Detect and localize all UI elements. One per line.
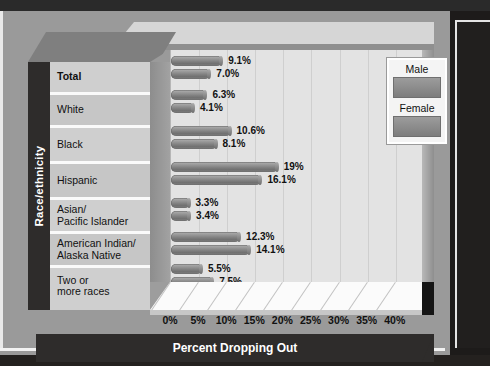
bar-male [171, 126, 231, 136]
chart-ceiling [134, 22, 434, 45]
category-label-line: Alaska Native [57, 250, 136, 262]
category-label-hispanic: Hispanic [50, 164, 150, 200]
category-label-line: American Indian/ [57, 238, 136, 250]
bar-female [171, 69, 210, 79]
floor-gridline [176, 282, 199, 310]
category-label-line: Hispanic [57, 175, 97, 187]
category-label-white: White [50, 95, 150, 128]
bar-female [171, 211, 190, 221]
right-margin-panel-inner [455, 20, 490, 348]
x-tick-label: 10% [216, 314, 237, 326]
x-tick-label: 5% [191, 314, 206, 326]
floor-gridline [316, 282, 339, 310]
bar-female [171, 245, 250, 255]
bar-female [171, 103, 194, 113]
x-tick-label: 15% [244, 314, 265, 326]
x-tick-label: 30% [328, 314, 349, 326]
bar-value-label: 12.3% [246, 231, 274, 242]
y-axis-title-bar: Race/ethnicity [28, 62, 50, 310]
bar-female [171, 175, 261, 185]
x-tick-label: 20% [272, 314, 293, 326]
gridline [368, 50, 369, 282]
bar-value-label: 9.1% [228, 55, 251, 66]
bar-value-label: 7.0% [216, 68, 239, 79]
plot-area: 9.1%7.0%6.3%4.1%10.6%8.1%19%16.1%3.3%3.4… [170, 50, 423, 282]
bar-value-label: 19% [284, 161, 304, 172]
chart-floor [150, 282, 434, 310]
category-label-asian-pacific-islander: Asian/ Pacific Islander [50, 200, 150, 234]
bar-male [171, 56, 222, 66]
bar-value-label: 14.1% [256, 244, 284, 255]
floor-gridline [260, 282, 283, 310]
category-label-two-or-more-races: Two or more races [50, 268, 150, 304]
bar-male [171, 162, 278, 172]
x-tick-label: 35% [356, 314, 377, 326]
floor-gridline [232, 282, 255, 310]
bar-female [171, 139, 217, 149]
floor-gridline [372, 282, 395, 310]
legend-label-male: Male [393, 63, 441, 75]
x-axis-ticks: 0%5%10%15%20%25%30%35%40% [150, 314, 434, 330]
floor-gridline [344, 282, 367, 310]
category-label-line: Pacific Islander [57, 216, 128, 228]
gridline [311, 50, 312, 282]
chart-floor-left-bevel [150, 282, 170, 310]
category-label-line: Total [57, 71, 81, 83]
legend-swatch-male [393, 77, 441, 98]
category-label-panel: Total White Black Hispanic Asian/ Pacifi… [50, 62, 150, 310]
bar-value-label: 5.5% [208, 263, 231, 274]
bar-male [171, 264, 202, 274]
page-left-rule [0, 11, 3, 351]
bar-value-label: 8.1% [223, 138, 246, 149]
chart-3d-shell: Race/ethnicity Total White Black Hispani… [18, 22, 434, 340]
x-tick-label: 40% [384, 314, 405, 326]
legend[interactable]: Male Female [387, 58, 447, 144]
category-label-line: more races [57, 286, 110, 298]
x-tick-label: 0% [162, 314, 177, 326]
y-axis-title: Race/ethnicity [28, 62, 50, 310]
floor-gridline [288, 282, 311, 310]
bar-value-label: 6.3% [212, 89, 235, 100]
chart-floor-right-shadow [422, 282, 434, 315]
category-label-line: Asian/ [57, 204, 128, 216]
bar-value-label: 4.1% [200, 102, 223, 113]
left-wall [150, 62, 170, 310]
bar-value-label: 3.3% [196, 197, 219, 208]
x-tick-label: 25% [300, 314, 321, 326]
legend-swatch-female [393, 116, 441, 137]
gridline [340, 50, 341, 282]
bar-value-label: 16.1% [267, 174, 295, 185]
bar-male [171, 198, 190, 208]
label-column-top-slab [28, 32, 176, 62]
legend-label-female: Female [393, 102, 441, 114]
bar-male [171, 90, 206, 100]
category-label-total: Total [50, 62, 150, 95]
category-label-line: White [57, 104, 84, 116]
floor-gridline [204, 282, 227, 310]
bar-value-label: 3.4% [196, 210, 219, 221]
bar-value-label: 10.6% [237, 125, 265, 136]
x-axis-title: Percent Dropping Out [36, 334, 434, 362]
category-label-black: Black [50, 128, 150, 164]
category-label-american-indian-alaska-native: American Indian/ Alaska Native [50, 234, 150, 268]
category-label-line: Black [57, 139, 83, 151]
bar-male [171, 232, 240, 242]
page-top-border [0, 0, 490, 11]
chart-page: Race/ethnicity Total White Black Hispani… [0, 0, 490, 366]
